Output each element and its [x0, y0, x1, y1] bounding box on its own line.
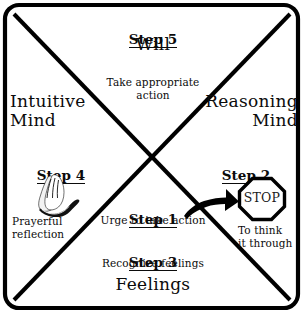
diagram-canvas: Step 5 Will Take appropriate action Intu… — [0, 0, 306, 323]
step-1-description: Urge to take action — [88, 214, 218, 227]
quadrant-title-reasoning-mind: Reasoning Mind — [186, 92, 298, 130]
quadrant-title-will: Will — [103, 35, 203, 54]
praying-hands-icon — [27, 173, 83, 217]
stop-sign-text: STOP — [237, 190, 287, 205]
step-3-description: Recognize feelings — [90, 257, 216, 270]
quadrant-title-feelings: Feelings — [100, 275, 206, 294]
right-quadrant-description: To think it through — [238, 224, 304, 249]
quadrant-title-intuitive-mind: Intuitive Mind — [10, 92, 120, 130]
